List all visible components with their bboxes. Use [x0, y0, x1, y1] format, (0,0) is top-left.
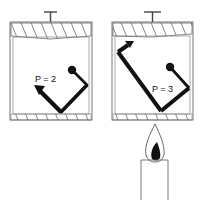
right-lid-hatch [113, 23, 192, 37]
right-bent-tube-arrow [118, 41, 189, 111]
left-lid-handle [44, 12, 57, 22]
left-pressure-label: P = 2 [35, 74, 56, 84]
right-bottom-hatch [113, 114, 192, 120]
right-lid-handle [144, 12, 161, 22]
candle [141, 124, 168, 200]
left-container: P = 2 [10, 12, 92, 120]
flame-core-icon [151, 142, 160, 160]
diagram-canvas: P = 2 P = 3 [0, 0, 205, 200]
left-bent-tube-arrow [34, 66, 87, 112]
left-bottom-hatch [11, 114, 91, 120]
left-lid-hatch [11, 23, 91, 39]
right-container: P = 3 [112, 12, 193, 120]
right-pressure-label: P = 3 [152, 84, 173, 94]
